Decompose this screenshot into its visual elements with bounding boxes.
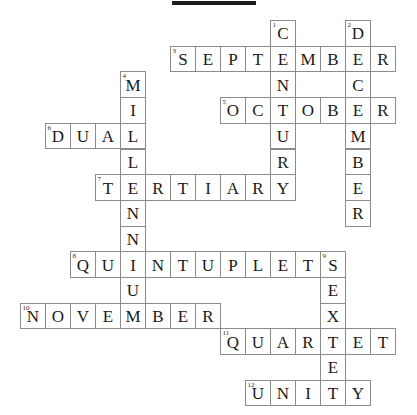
- crossword-cell[interactable]: 9S: [320, 251, 346, 278]
- crossword-cell[interactable]: T: [370, 328, 396, 355]
- crossword-cell[interactable]: Y: [345, 380, 371, 407]
- crossword-cell[interactable]: B: [320, 97, 346, 124]
- crossword-cell[interactable]: E: [195, 46, 221, 73]
- crossword-grid[interactable]: 1C2D3SEPTEMBER4MNCI5OCTOBER6DUALUMLRB7TE…: [0, 0, 417, 415]
- crossword-cell[interactable]: 4M: [120, 71, 146, 98]
- crossword-cell[interactable]: A: [220, 174, 246, 201]
- crossword-cell[interactable]: I: [195, 174, 221, 201]
- crossword-cell[interactable]: L: [245, 251, 271, 278]
- crossword-cell[interactable]: U: [245, 328, 271, 355]
- crossword-cell[interactable]: R: [295, 328, 321, 355]
- crossword-cell[interactable]: A: [95, 123, 121, 150]
- crossword-cell[interactable]: 2D: [345, 20, 371, 47]
- crossword-cell[interactable]: E: [345, 174, 371, 201]
- crossword-cell[interactable]: 12U: [245, 380, 271, 407]
- crossword-cell[interactable]: C: [345, 71, 371, 98]
- cell-letter: T: [371, 334, 395, 351]
- cell-letter: T: [171, 257, 195, 274]
- crossword-cell[interactable]: E: [270, 46, 296, 73]
- crossword-cell[interactable]: R: [245, 174, 271, 201]
- crossword-cell[interactable]: R: [345, 200, 371, 227]
- crossword-cell[interactable]: E: [345, 46, 371, 73]
- crossword-cell[interactable]: E: [270, 251, 296, 278]
- crossword-cell[interactable]: 3S: [170, 46, 196, 73]
- crossword-cell[interactable]: 6D: [45, 123, 71, 150]
- crossword-cell[interactable]: M: [295, 46, 321, 73]
- cell-letter: A: [96, 128, 120, 145]
- crossword-cell[interactable]: E: [345, 97, 371, 124]
- crossword-cell[interactable]: M: [120, 303, 146, 330]
- crossword-cell[interactable]: 8Q: [70, 251, 96, 278]
- cell-letter: T: [271, 103, 295, 120]
- crossword-cell[interactable]: 7T: [95, 174, 121, 201]
- cell-letter: S: [171, 51, 195, 68]
- crossword-cell[interactable]: O: [295, 97, 321, 124]
- crossword-cell[interactable]: T: [320, 328, 346, 355]
- crossword-cell[interactable]: T: [320, 380, 346, 407]
- crossword-cell[interactable]: T: [170, 174, 196, 201]
- cell-letter: I: [296, 385, 320, 402]
- crossword-cell[interactable]: N: [120, 226, 146, 253]
- crossword-cell[interactable]: E: [320, 277, 346, 304]
- crossword-cell[interactable]: U: [120, 277, 146, 304]
- crossword-cell[interactable]: E: [95, 303, 121, 330]
- crossword-cell[interactable]: O: [45, 303, 71, 330]
- crossword-cell[interactable]: R: [195, 303, 221, 330]
- crossword-cell[interactable]: B: [345, 149, 371, 176]
- crossword-cell[interactable]: A: [270, 328, 296, 355]
- crossword-cell[interactable]: R: [270, 149, 296, 176]
- cell-letter: E: [271, 51, 295, 68]
- crossword-cell[interactable]: E: [170, 303, 196, 330]
- cell-letter: E: [321, 360, 345, 377]
- crossword-cell[interactable]: L: [120, 149, 146, 176]
- cell-letter: T: [321, 334, 345, 351]
- crossword-cell[interactable]: U: [95, 251, 121, 278]
- crossword-cell[interactable]: U: [70, 123, 96, 150]
- cell-letter: P: [221, 51, 245, 68]
- crossword-cell[interactable]: P: [220, 46, 246, 73]
- crossword-cell[interactable]: V: [70, 303, 96, 330]
- crossword-cell[interactable]: C: [245, 97, 271, 124]
- crossword-cell[interactable]: X: [320, 303, 346, 330]
- crossword-cell[interactable]: R: [370, 46, 396, 73]
- crossword-cell[interactable]: N: [270, 380, 296, 407]
- crossword-cell[interactable]: I: [295, 380, 321, 407]
- cell-letter: N: [121, 231, 145, 248]
- crossword-cell[interactable]: N: [120, 200, 146, 227]
- crossword-cell[interactable]: P: [220, 251, 246, 278]
- crossword-cell[interactable]: 1C: [270, 20, 296, 47]
- crossword-cell[interactable]: R: [145, 174, 171, 201]
- crossword-cell[interactable]: N: [270, 71, 296, 98]
- cell-letter: E: [346, 103, 370, 120]
- cell-letter: P: [221, 257, 245, 274]
- cell-letter: E: [96, 308, 120, 325]
- crossword-cell[interactable]: U: [270, 123, 296, 150]
- crossword-cell[interactable]: E: [320, 354, 346, 381]
- cell-letter: U: [246, 385, 270, 402]
- cell-letter: B: [346, 154, 370, 171]
- crossword-cell[interactable]: L: [120, 123, 146, 150]
- crossword-cell[interactable]: T: [295, 251, 321, 278]
- crossword-cell[interactable]: T: [270, 97, 296, 124]
- cell-letter: R: [371, 103, 395, 120]
- crossword-cell[interactable]: T: [245, 46, 271, 73]
- crossword-cell[interactable]: 5O: [220, 97, 246, 124]
- crossword-cell[interactable]: 10N: [20, 303, 46, 330]
- crossword-cell[interactable]: B: [145, 303, 171, 330]
- crossword-cell[interactable]: T: [170, 251, 196, 278]
- crossword-cell[interactable]: R: [370, 97, 396, 124]
- cell-letter: M: [121, 308, 145, 325]
- crossword-cell[interactable]: B: [320, 46, 346, 73]
- crossword-cell[interactable]: I: [120, 97, 146, 124]
- crossword-puzzle: 1C2D3SEPTEMBER4MNCI5OCTOBER6DUALUMLRB7TE…: [0, 0, 417, 415]
- crossword-cell[interactable]: E: [120, 174, 146, 201]
- crossword-cell[interactable]: I: [120, 251, 146, 278]
- crossword-cell[interactable]: N: [145, 251, 171, 278]
- crossword-cell[interactable]: Y: [270, 174, 296, 201]
- crossword-cell[interactable]: 11Q: [220, 328, 246, 355]
- crossword-cell[interactable]: M: [345, 123, 371, 150]
- cell-letter: Y: [271, 180, 295, 197]
- crossword-cell[interactable]: E: [345, 328, 371, 355]
- cell-letter: B: [321, 51, 345, 68]
- crossword-cell[interactable]: U: [195, 251, 221, 278]
